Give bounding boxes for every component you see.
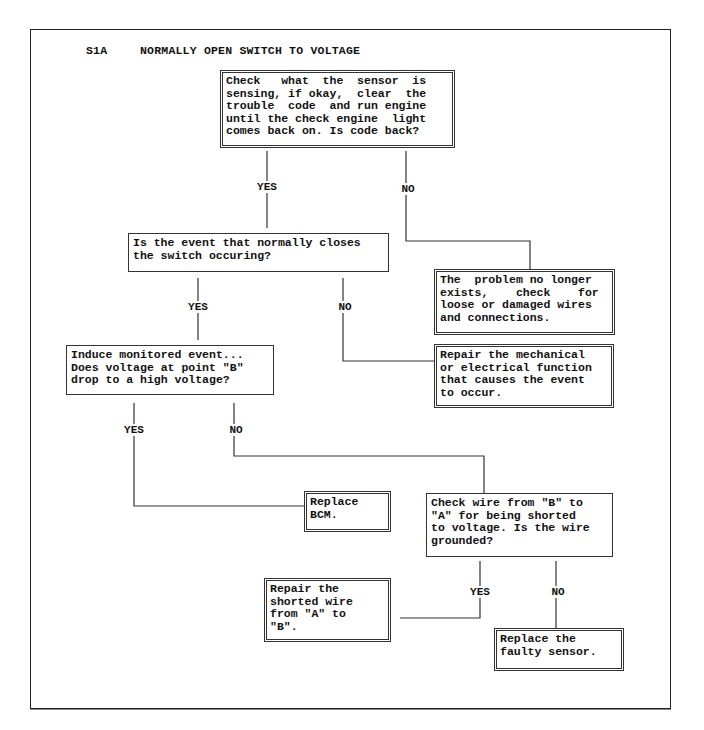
connector-event-occurring-to-repair-mechanical (343, 278, 434, 361)
node-repair-mechanical: Repair the mechanical or electrical func… (434, 344, 614, 408)
node-repair-shorted-wire: Repair the shorted wire from "A" to "B". (264, 578, 391, 642)
node-event-occurring: Is the event that normally closes the sw… (128, 233, 389, 272)
node-induce-event: Induce monitored event... Does voltage a… (66, 345, 274, 395)
edge-label-yes: YES (256, 181, 278, 193)
node-check-wire: Check wire from "B" to "A" for being sho… (426, 493, 613, 557)
connector-check-wire-to-repair-shorted-wire (400, 561, 480, 618)
edge-label-yes: YES (123, 424, 145, 436)
node-replace-bcm: Replace BCM. (304, 491, 391, 532)
edge-label-no: NO (400, 183, 415, 195)
connector-induce-event-to-check-wire (234, 403, 484, 493)
node-check-sensor: Check what the sensor is sensing, if oka… (220, 70, 455, 148)
connector-induce-event-to-replace-bcm (134, 403, 304, 506)
edge-label-yes: YES (187, 301, 209, 313)
edge-label-yes: YES (469, 586, 491, 598)
node-replace-faulty-sensor: Replace the faulty sensor. (494, 628, 624, 671)
edge-label-no: NO (228, 424, 243, 436)
edge-label-no: NO (337, 301, 352, 313)
edge-label-no: NO (550, 586, 565, 598)
connector-check-sensor-to-problem-no-longer-exists (406, 151, 530, 269)
node-problem-no-longer-exists: The problem no longer exists, check for … (434, 269, 615, 335)
